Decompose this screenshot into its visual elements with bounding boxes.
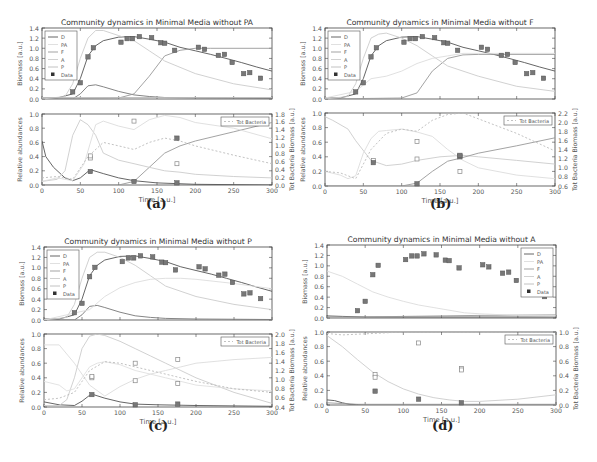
data-marker [175,136,179,140]
y2-tick-label: 0.6 [559,358,569,365]
data-marker [408,36,412,40]
data-marker [88,169,92,173]
y2-tick-label: 0.6 [275,158,285,165]
y-tick-label: 0.2 [312,85,322,92]
y2-axis-label: Tot Bacteria Biomass [a.u.] [288,329,295,413]
bottom-axes-d: 0.00.20.40.60.81.0050100150200250300Rela… [301,327,579,424]
y-tick-label: 0.6 [312,65,322,72]
y-tick-label: 0.2 [314,387,324,394]
legend-entry: Data [537,289,549,295]
y2-tick-label: 1.4 [558,146,568,153]
y2-axis-label: Tot Bacteria Biomass [a.u.] [571,108,578,192]
data-marker-open [176,382,180,386]
y2-tick-label: 0.2 [559,387,569,394]
legend-entry: A [344,57,348,63]
y-tick-label: 1.2 [31,254,41,261]
y2-tick-label: 2.0 [558,119,568,126]
legend-entry: PA [61,42,68,48]
y2-tick-label: 0.6 [558,183,568,190]
y-tick-label: 0.2 [29,85,39,92]
data-marker [376,263,380,267]
x-tick-label: 250 [228,409,240,416]
y2-ticks: 0.00.20.40.60.81.0 [559,329,569,409]
y-axis-label: Relative abundances [299,117,306,182]
data-marker-open [415,157,419,161]
x-tick-label: 250 [512,407,524,414]
y-tick-label: 0.6 [31,285,41,292]
legend-marker [53,292,57,296]
y2-tick-label: 1.0 [559,329,569,336]
data-marker [173,268,177,272]
y-tick-label: 0.0 [29,182,39,189]
legend-entry: PA [537,259,544,265]
data-marker [258,76,262,80]
y2-tick-label: 1.0 [275,142,285,149]
data-marker [455,48,459,52]
data-marker-open [417,341,421,345]
data-marker [458,153,462,157]
data-marker [513,60,517,64]
y-axis-label: Relative abundances [301,336,308,401]
legend: DPAFAPData [47,250,79,299]
data-marker [434,253,438,257]
y-tick-label: 0.2 [29,167,39,174]
y-tick-label: 0.4 [314,294,324,301]
x-tick-label: 100 [397,407,409,414]
data-marker [78,81,82,85]
y-tick-label: 0.4 [29,153,39,160]
data-marker [230,280,234,284]
y-tick-label: 0.0 [29,96,39,103]
data-marker [132,179,136,183]
top-axes-b: 0.00.20.40.60.81.01.21.4Biomass [a.u.]DP… [299,25,555,103]
y-tick-label: 0.8 [31,345,41,352]
y2-tick-label: 2.0 [275,331,285,338]
data-marker [197,265,201,269]
data-marker [203,267,207,271]
y-tick-label: 1.2 [314,252,324,259]
y-axis-label: Biomass [a.u.] [16,41,23,85]
y2-tick-label: 0.8 [559,343,569,350]
data-marker [413,36,417,40]
y-tick-label: 0.8 [312,124,322,131]
data-marker [172,48,176,52]
legend-entry: F [537,266,540,272]
y-tick-label: 1.4 [31,244,41,251]
y-tick-label: 1.0 [312,110,322,117]
y-tick-label: 0.2 [31,389,41,396]
data-marker [445,41,449,45]
y-tick-label: 0.4 [29,75,39,82]
y-tick-label: 1.4 [29,25,39,32]
y-tick-label: 0.6 [312,139,322,146]
legend-entry: Data [61,72,73,78]
legend: Tot Bacteria [221,337,269,346]
top-axes-a: 0.00.20.40.60.81.01.21.4Biomass [a.u.]DP… [16,25,272,103]
data-marker [242,292,246,296]
legend-entry: PA [63,261,70,267]
y-tick-label: 0.0 [314,402,324,409]
data-marker [505,52,509,56]
legend-marker [527,290,531,294]
y2-tick-label: 1.2 [275,134,285,141]
y2-tick-label: 1.0 [558,164,568,171]
legend-entry: P [61,64,64,70]
legend-entry: F [63,268,66,274]
data-marker-open [133,361,137,365]
data-marker-open [88,154,92,158]
data-marker [131,256,135,260]
data-marker [248,70,252,74]
y-tick-label: 1.0 [314,329,324,336]
legend: Tot Bacteria [505,335,553,344]
data-marker [196,45,200,49]
legend-marker [334,73,338,77]
data-marker [420,34,424,38]
y2-tick-label: 1.8 [275,111,285,118]
data-marker [422,252,426,256]
data-marker [163,260,167,264]
data-marker [130,36,134,40]
y2-tick-label: 1.6 [558,137,568,144]
y2-tick-label: 0.0 [559,402,569,409]
chart-title-a: Community dynamics in Minimal Media with… [61,18,254,27]
y2-tick-label: 1.8 [558,128,568,135]
data-marker-open [90,374,94,378]
legend-entry: A [61,57,65,63]
